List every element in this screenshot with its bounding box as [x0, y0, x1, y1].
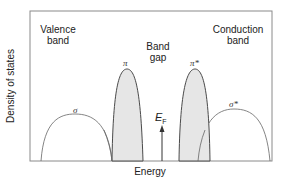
- valence-band-label: Valence band: [36, 24, 80, 46]
- conduction-label-line2: band: [206, 35, 270, 46]
- pi-star-label: π*: [190, 58, 199, 68]
- conduction-band-label: Conduction band: [206, 24, 270, 46]
- sigma-star-label: σ*: [229, 99, 238, 109]
- gap-label-line1: Band: [140, 41, 176, 52]
- pi-band-curve: [112, 69, 143, 161]
- band-gap-label: Band gap: [140, 41, 176, 63]
- pi-label: π: [123, 58, 128, 68]
- fermi-level-label: EF: [155, 111, 167, 125]
- pi-star-band-curve: [179, 69, 210, 161]
- conduction-label-line1: Conduction: [206, 24, 270, 35]
- y-axis-label: Density of states: [5, 26, 16, 146]
- sigma-label: σ: [73, 105, 77, 115]
- valence-label-line2: band: [36, 35, 80, 46]
- x-axis-label: Energy: [120, 166, 180, 177]
- gap-label-line2: gap: [140, 52, 176, 63]
- sigma-band-curve: [41, 114, 112, 161]
- valence-label-line1: Valence: [36, 24, 80, 35]
- arrowhead-icon: [160, 125, 165, 132]
- fermi-subscript: F: [162, 118, 166, 125]
